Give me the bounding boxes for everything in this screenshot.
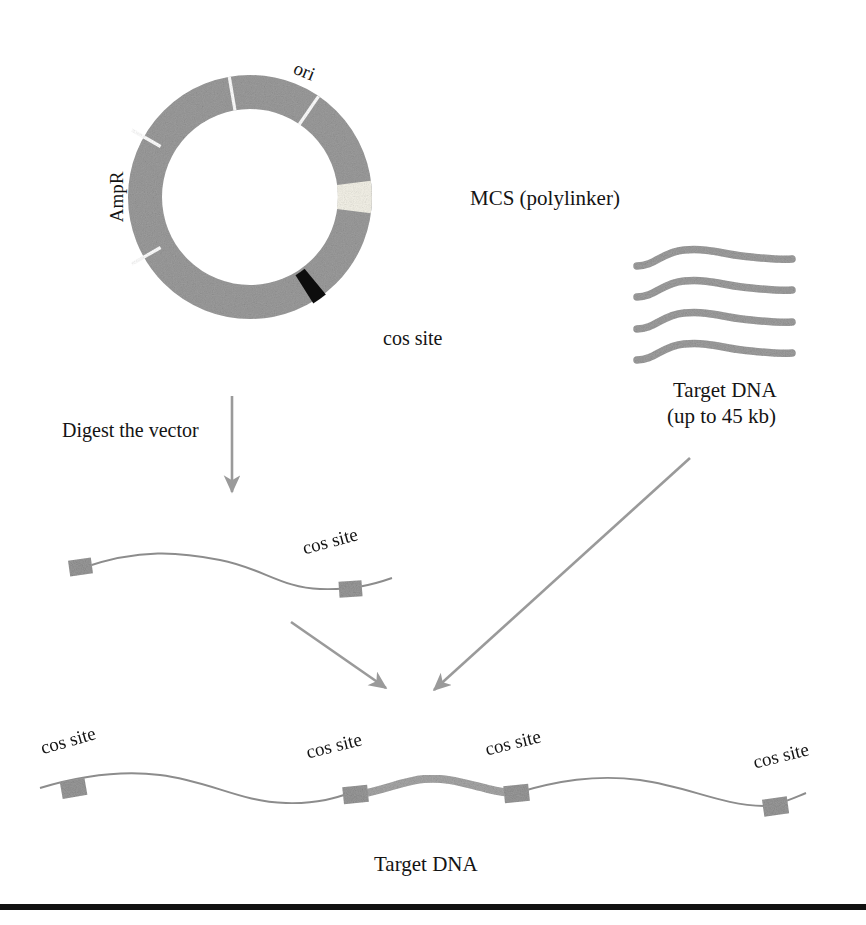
- digest-the-vector-label: Digest the vector: [62, 419, 199, 442]
- ligation-arrow-right: [434, 458, 690, 690]
- ampr-label: AmpR: [106, 171, 127, 222]
- construct-cos-site-label-2: cos site: [304, 728, 364, 763]
- gap-ampr-top: [132, 130, 161, 147]
- target-dna-source-caption-line2: (up to 45 kb): [667, 404, 776, 429]
- cos-site-block: [762, 796, 789, 816]
- mcs-label: MCS (polylinker): [470, 186, 620, 211]
- construct-insert-span: [356, 779, 516, 795]
- cosmid-cloning-figure: ori AmpR: [0, 0, 866, 925]
- construct-cos-site-label-3: cos site: [483, 725, 543, 760]
- target-dna-source-caption-line1: Target DNA: [673, 378, 777, 403]
- ligation-arrow-left: [291, 622, 386, 688]
- target-dna-strand: [637, 313, 792, 329]
- figure-canvas: ori AmpR: [0, 0, 866, 925]
- construct-cos-site-label-1: cos site: [38, 722, 98, 759]
- linear-vector-backbone: [82, 553, 392, 589]
- gap-ori-left: [229, 77, 235, 111]
- final-construct-caption: Target DNA: [374, 852, 478, 877]
- construct-vector-span: [516, 778, 764, 806]
- target-dna-strand: [637, 250, 792, 266]
- plasmid-ring-group: [132, 77, 372, 304]
- cos-site-block: [68, 557, 93, 576]
- target-dna-strand-group: [637, 250, 792, 360]
- construct-cos-site-label-4: cos site: [751, 738, 811, 773]
- cos-site-block: [60, 778, 88, 799]
- construct-tail: [776, 793, 806, 804]
- plasmid-ring-body: [145, 92, 355, 302]
- ori-label: ori: [291, 57, 318, 84]
- cos-site-block: [342, 785, 369, 805]
- plasmid-segment-gaps: [132, 77, 319, 264]
- target-dna-strand: [637, 344, 792, 360]
- linear-vector-cos-site-label: cos site: [300, 523, 360, 559]
- mcs-block: [337, 181, 372, 214]
- ring-cos-site-label: cos site: [383, 327, 442, 350]
- linearized-vector-group: [68, 553, 392, 597]
- cos-site-block: [503, 784, 530, 804]
- gap-ampr-bot: [132, 248, 161, 265]
- cos-site-block: [338, 580, 362, 598]
- construct-vector-span: [40, 773, 356, 803]
- target-dna-strand: [637, 281, 792, 297]
- final-construct-group: [40, 773, 806, 816]
- cos-site-block-ring: [296, 269, 326, 304]
- gap-ori-right: [299, 96, 318, 124]
